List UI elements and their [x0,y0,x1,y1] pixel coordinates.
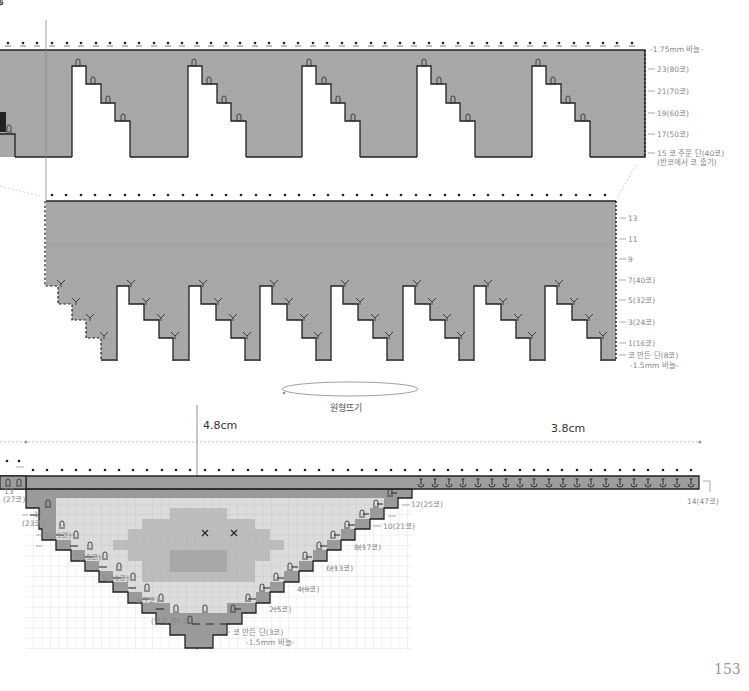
page-number: 153 [714,661,741,677]
chart-3-row-label: 8(17코) [354,543,381,552]
chart-3-row-label: 3(7코) [136,596,158,605]
chart-3-row-label: 7(15코) [74,553,101,562]
chart-3-row-label: 10(21코) [383,522,415,531]
chart-3-row-label: 9(19코) [44,531,71,540]
chart-3-row-label: 5(11코) [102,574,129,583]
chart-3-edge-label: 14(47코) [687,497,719,506]
chart-2-row-label: 11 [628,235,638,244]
dimension-left: 4.8cm [203,419,237,432]
chart-2-cast-on-label: 코 만든 단(8코) [628,351,678,360]
chart-3-row-label: (안쪽 면) 1 [151,617,187,626]
chart-1-row-label: 17(50코) [657,130,689,139]
chart-2-row-label: 3(24코) [628,318,655,327]
chart-2-row-label: 9 [628,255,633,264]
chart-3-cast-on-label: 코 만든 단(3코) [233,628,283,637]
chart-2-needle-label: -1.5mm 바늘- [630,361,678,370]
chart-1-row-label: 21(70코) [657,87,689,96]
chart-3-row-count: (27코) [3,495,25,504]
chart-2-row-label: 7(40코) [628,276,655,285]
chart-1-start-label: 15 코 주운 단(40코) [657,149,724,158]
chart-1-row-label: 19(60코) [657,109,689,118]
chart-1-start-note: (반코에서 코 줍기) [657,158,717,167]
chart-1-needle-label: -1.75mm 바늘- [650,45,703,54]
chart-3-row-label: 4(9코) [297,585,319,594]
chart-3-needle-label: -1.5mm 바늘- [246,638,294,647]
chart-3-row-count: (23코) [22,519,44,528]
chart-2-row-label: 1(16코) [628,339,655,348]
chart-1-row-label: 23(80코) [657,65,689,74]
chart-3-row-label: 2(5코) [269,605,291,614]
chart-3-row-label: 6(13코) [326,564,353,573]
chart-2-row-label: 5(32코) [628,296,655,305]
chart-2-row-label: 13 [628,214,638,223]
chart-3-row-label: 12(25코) [411,500,443,509]
dimension-right: 3.8cm [551,422,585,435]
chart-3-row-label: 11 [34,510,44,519]
direction-caption: 원형뜨기 [330,401,362,414]
